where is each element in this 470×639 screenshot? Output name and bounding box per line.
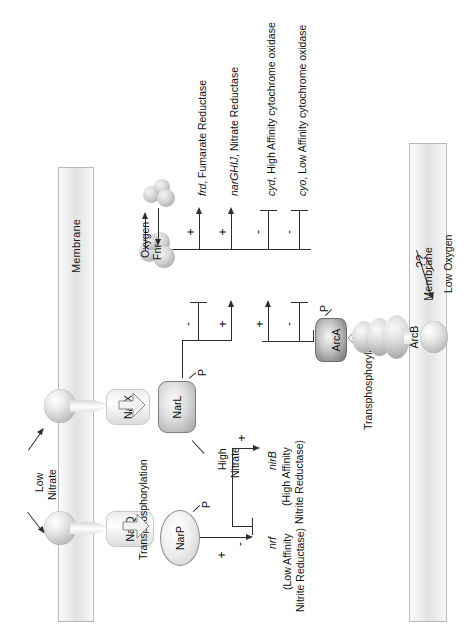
- narx-transmembrane-neck: [70, 400, 110, 412]
- fnr-nargh-stem: [231, 213, 232, 250]
- narl-nrf-sign: -: [234, 542, 246, 546]
- gene-nargh-row: narGHIJ, Nitrate Reductase: [228, 67, 240, 196]
- narl-frd-tbar: [190, 302, 207, 303]
- oxygen-bound-fnr: [143, 179, 177, 209]
- fnr-spine-horz: [163, 249, 311, 250]
- arca-label: ArcA: [330, 329, 342, 352]
- gene-nargh-desc: , Nitrate Reductase: [228, 67, 240, 157]
- high-nitrate-line2: Nitrate: [229, 447, 241, 478]
- regulator-narp: NarP: [160, 510, 200, 566]
- narp-nrf-arrowhead: [246, 534, 253, 540]
- membrane-right: Membrane: [409, 143, 447, 622]
- narp-nrf-stem: [200, 537, 247, 538]
- narl-label: NarL: [171, 396, 183, 419]
- gene-nargh-label: narGHIJ: [228, 157, 240, 196]
- nrf-desc-line2: Nitrite Reductase): [294, 528, 306, 612]
- fnr-frd-sign: +: [185, 228, 197, 235]
- arca-cyo-stem: [299, 302, 300, 341]
- narp-nrf-sign: +: [216, 551, 228, 558]
- narl-upper-spine-horz: [182, 340, 232, 341]
- fnr-oxygen-up-arrowhead: [142, 212, 148, 219]
- narl-nargh-arrowhead: [228, 300, 234, 307]
- arcb-periplasmic-domain: [420, 321, 448, 353]
- sensor-arcb: ArcB: [352, 315, 448, 361]
- fnr-cyd-tbar: [260, 210, 277, 211]
- gene-frd-label: frd: [196, 184, 208, 196]
- narq-to-narp-block-arrow: [122, 511, 150, 541]
- gene-cyo-row: cyo, Low Affinity cytochrome oxidase: [296, 25, 308, 196]
- narx-to-narl-block-arrow: [118, 390, 146, 420]
- narl-nrf-tbar: [252, 518, 253, 535]
- gene-nirb-label: nirB: [266, 451, 278, 470]
- narl-to-highnitrate-link: [192, 440, 205, 454]
- narq-transmembrane-neck: [70, 522, 110, 534]
- narl-frd-stem: [198, 302, 199, 341]
- oxygen-label: Oxygen: [139, 222, 151, 258]
- gene-cyd-label: cyd: [265, 180, 277, 196]
- fnr-frd-stem: [199, 213, 200, 250]
- narl-nargh-stem: [231, 306, 232, 341]
- fnr-cyo-sign: -: [283, 230, 295, 234]
- gene-frd-row: frd, Fumarate Reductase: [196, 80, 208, 196]
- membrane-left-label: Membrane: [70, 219, 82, 273]
- narl-upper-spine-vert: [182, 340, 183, 378]
- narl-nargh-sign: +: [217, 320, 229, 327]
- arca-spine-horz: [262, 341, 314, 342]
- fnr-cyd-sign: -: [252, 230, 264, 234]
- narl-phospho-label: P: [196, 369, 208, 376]
- high-nitrate-line1: High: [216, 448, 228, 470]
- arca-cyd-arrowhead: [265, 300, 271, 307]
- arca-phospho-label: P: [318, 305, 330, 312]
- pathway-diagram: Membrane Membrane NarX NarQ Low Nitrate …: [0, 0, 470, 639]
- fnr-frd-arrowhead: [196, 207, 202, 214]
- nirb-desc-line2: Nitrite Reductase): [293, 440, 305, 524]
- arca-cyo-tbar: [291, 302, 308, 303]
- narl-frd-sign: -: [182, 322, 194, 326]
- arcb-label: ArcB: [408, 326, 420, 349]
- gene-cyd-desc: , High Affinity cytochrome oxidase: [265, 22, 277, 179]
- narl-nirb-sign: +: [236, 434, 248, 441]
- regulator-narl: NarL: [158, 381, 196, 433]
- narl-nirb-stem: [232, 448, 254, 449]
- fnr-oxygen-down-line: [158, 208, 159, 241]
- low-oxygen-label: Low Oxygen: [442, 235, 454, 293]
- fnr-cyo-stem: [299, 210, 300, 250]
- arca-cyd-stem: [268, 306, 269, 341]
- narl-nrf-stem: [232, 526, 252, 527]
- gene-frd-desc: , Fumarate Reductase: [196, 80, 208, 184]
- fnr-cyd-stem: [268, 210, 269, 250]
- arca-cyd-sign: +: [254, 320, 266, 327]
- narp-phospho-label: P: [200, 501, 212, 508]
- nrf-desc-line1: (Low Affinity: [281, 534, 293, 590]
- narl-branch-spine: [232, 448, 233, 526]
- gene-nrf-label: nrf: [266, 537, 278, 549]
- fnr-cyo-tbar: [291, 210, 308, 211]
- low-nitrate-line1: Low: [33, 473, 45, 492]
- gene-cyo-label: cyo: [296, 180, 308, 196]
- arca-cyo-sign: -: [283, 322, 295, 326]
- arca-spine-vert: [313, 330, 314, 342]
- regulator-arca: ArcA: [315, 318, 347, 362]
- gene-cyo-desc: , Low Affinity cytochrome oxidase: [296, 25, 308, 180]
- low-nitrate-line2: Nitrate: [46, 469, 58, 500]
- nirb-desc-line1: (High Affinity: [280, 447, 292, 506]
- gene-cyd-row: cyd, High Affinity cytochrome oxidase: [265, 22, 277, 196]
- fnr-nargh-sign: +: [217, 228, 229, 235]
- narp-label: NarP: [174, 526, 186, 550]
- narl-nirb-arrowhead: [253, 445, 260, 451]
- transphosphorylation-left-label: Transphosphorylation: [137, 459, 149, 560]
- fnr-nargh-arrowhead: [228, 207, 234, 214]
- fnr-label: Fnr: [151, 244, 163, 260]
